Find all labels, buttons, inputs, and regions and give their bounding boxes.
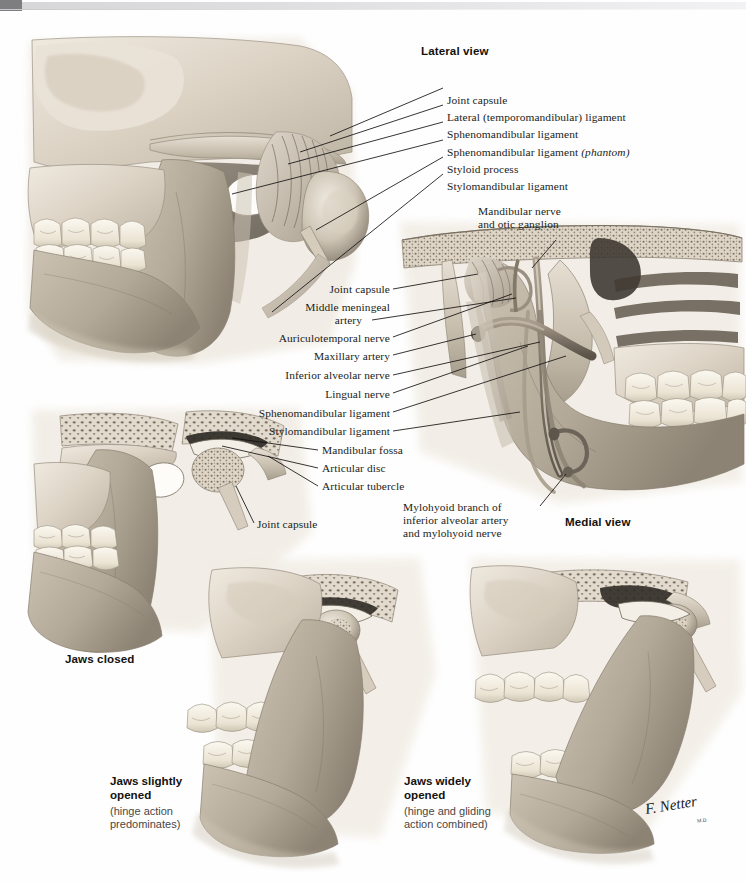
label-joint-capsule-lateral: Joint capsule bbox=[447, 94, 507, 107]
label-mandibular-nerve-line2: and otic ganglion bbox=[478, 218, 559, 231]
top-chrome-bar bbox=[0, 0, 746, 12]
heading-lateral-view: Lateral view bbox=[421, 44, 489, 57]
label-styloid-process: Styloid process bbox=[447, 163, 518, 176]
label-middle-meningeal: Middle meningeal bbox=[150, 301, 390, 314]
label-mylohyoid-line1: Mylohyoid branch of bbox=[403, 501, 502, 514]
label-mandibular-nerve-line1: Mandibular nerve bbox=[478, 205, 561, 218]
illustration-jaws-slightly-opened bbox=[187, 558, 436, 868]
label-mylohyoid-line2: inferior alveolar artery bbox=[403, 514, 509, 527]
label-auriculotemporal-nerve: Auriculotemporal nerve bbox=[150, 332, 390, 345]
heading-jaws-closed: Jaws closed bbox=[65, 652, 134, 665]
heading-medial-view: Medial view bbox=[565, 515, 631, 528]
anatomical-plate: Lateral view Joint capsule Lateral (temp… bbox=[0, 12, 746, 883]
label-stylomandibular-ligament: Stylomandibular ligament bbox=[447, 180, 568, 193]
label-joint-capsule-medial: Joint capsule bbox=[150, 283, 390, 296]
label-sphenomandibular-ligament-phantom: Sphenomandibular ligament (phantom) bbox=[447, 146, 630, 159]
caption-jaws-widely-opened-sub-line2: action combined) bbox=[404, 818, 488, 831]
caption-jaws-slightly-opened-title-line2: opened bbox=[110, 788, 151, 802]
label-maxillary-artery: Maxillary artery bbox=[150, 350, 390, 363]
label-sphenomandibular-ligament: Sphenomandibular ligament bbox=[447, 128, 578, 141]
label-mylohyoid-line3: and mylohyoid nerve bbox=[403, 527, 502, 540]
label-articular-tubercle: Articular tubercle bbox=[322, 480, 404, 493]
caption-jaws-slightly-opened-sub-line2: predominates) bbox=[110, 818, 180, 831]
top-light-bar bbox=[0, 2, 746, 9]
label-middle-meningeal-artery: artery bbox=[150, 314, 362, 327]
label-lingual-nerve: Lingual nerve bbox=[150, 388, 390, 401]
top-hairline bbox=[0, 9, 746, 10]
label-sphenomandibular-ligament-medial: Sphenomandibular ligament bbox=[150, 407, 390, 420]
caption-jaws-widely-opened-title-line1: Jaws widely bbox=[404, 774, 471, 788]
label-stylomandibular-ligament-medial: Stylomandibular ligament bbox=[150, 425, 390, 438]
label-articular-disc: Articular disc bbox=[322, 462, 386, 475]
caption-jaws-widely-opened-title-line2: opened bbox=[404, 788, 445, 802]
caption-jaws-slightly-opened-title-line1: Jaws slightly bbox=[110, 774, 182, 788]
teeth-widely-opened-upper bbox=[475, 672, 590, 703]
caption-jaws-slightly-opened-sub-line1: (hinge action bbox=[110, 805, 173, 818]
label-joint-capsule-jaws-closed: Joint capsule bbox=[257, 518, 317, 531]
label-inferior-alveolar-nerve: Inferior alveolar nerve bbox=[150, 369, 390, 382]
caption-jaws-widely-opened-sub-line1: (hinge and gliding bbox=[404, 805, 491, 818]
label-phantom-italic: (phantom) bbox=[581, 146, 629, 158]
label-lateral-temporomandibular-ligament: Lateral (temporomandibular) ligament bbox=[447, 111, 626, 124]
label-sphenomandibular-ligament-phantom-text: Sphenomandibular ligament bbox=[447, 146, 581, 158]
label-mandibular-fossa: Mandibular fossa bbox=[322, 444, 403, 457]
illustration-medial-view bbox=[400, 222, 746, 504]
